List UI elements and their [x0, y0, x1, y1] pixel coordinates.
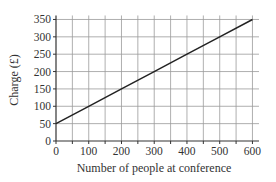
y-axis-title: Charge (£): [7, 54, 21, 105]
y-tick-label: 150: [34, 83, 52, 95]
x-tick-label: 500: [211, 145, 229, 157]
line-chart: 050100150200250300350 010020030040050060…: [0, 0, 276, 182]
y-axis-ticks: 050100150200250300350: [34, 13, 56, 147]
x-axis-ticks: 0100200300400500600: [53, 141, 261, 157]
y-tick-label: 250: [34, 48, 52, 60]
y-tick-label: 0: [45, 135, 51, 147]
y-tick-label: 350: [34, 13, 52, 25]
x-tick-label: 0: [53, 145, 59, 157]
x-tick-label: 200: [113, 145, 131, 157]
x-axis-title: Number of people at conference: [77, 161, 232, 175]
y-tick-label: 50: [40, 118, 52, 130]
x-tick-label: 100: [80, 145, 98, 157]
y-tick-label: 300: [34, 31, 52, 43]
x-tick-label: 300: [146, 145, 164, 157]
y-tick-label: 200: [34, 66, 52, 78]
axes: [56, 15, 259, 141]
grid-lines: [56, 15, 259, 141]
x-tick-label: 600: [244, 145, 262, 157]
x-tick-label: 400: [178, 145, 196, 157]
y-tick-label: 100: [34, 100, 52, 112]
